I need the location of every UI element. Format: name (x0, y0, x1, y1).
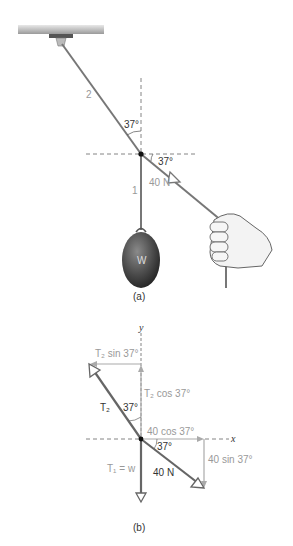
weight-hook (136, 229, 146, 233)
rope-1-label: 1 (132, 185, 138, 196)
ceiling-bracket (49, 34, 73, 38)
ceiling (18, 25, 104, 34)
x-axis-label: x (230, 433, 236, 444)
t1-label: T₁ = w (107, 463, 136, 474)
t1-arrowhead (136, 493, 146, 502)
angle-label-horizontal: 37° (158, 156, 173, 167)
angle-arc-horizontal (151, 154, 153, 161)
force-40n-label: 40 N (153, 467, 174, 478)
t2-cos-label: T₂ cos 37° (144, 388, 190, 399)
rope-2 (62, 44, 141, 154)
t2-cos-arrowhead (138, 365, 144, 372)
cos40-arrowhead (197, 436, 204, 442)
figure-b: y x T₂ sin 37° T₂ cos 37° T₂ 37° 40 cos … (86, 322, 253, 533)
rope-2-label: 2 (86, 89, 92, 100)
anchor-hook (56, 38, 66, 46)
figure-a: 2 37° 37° 40 N 1 W (a) (18, 25, 272, 302)
rope-to-hand (141, 154, 228, 226)
angle-label-b-horizontal: 37° (157, 441, 172, 452)
t2-label: T₂ (100, 402, 110, 413)
hand-illustration (210, 214, 272, 268)
caption-a: (a) (133, 291, 145, 302)
cos40-label: 40 cos 37° (147, 426, 194, 437)
force-label: 40 N (149, 177, 170, 188)
sin40-label: 40 sin 37° (208, 454, 253, 465)
angle-arc-vertical (127, 131, 141, 135)
t2-sin-label: T₂ sin 37° (95, 348, 138, 359)
t2-arrowhead (89, 364, 100, 377)
angle-arc-b-vertical (128, 417, 141, 421)
caption-b: (b) (133, 522, 145, 533)
diagram-canvas: 2 37° 37° 40 N 1 W (a) y x (0, 0, 293, 546)
origin-point (139, 437, 144, 442)
knot-point (138, 151, 143, 156)
weight-label: W (137, 255, 147, 266)
angle-label-b-vertical: 37° (123, 402, 138, 413)
y-axis-label: y (138, 322, 144, 333)
angle-label-vertical: 37° (124, 119, 139, 130)
